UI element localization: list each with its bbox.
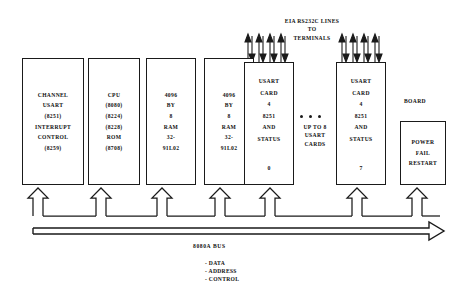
block-line: CPU — [108, 90, 121, 101]
block-line: BY — [225, 100, 233, 111]
block-line: 91L02 — [163, 143, 180, 154]
block-line: USART — [43, 100, 64, 111]
block-line: 8251 — [263, 111, 276, 123]
dot — [318, 115, 321, 118]
block-line: STATUS — [349, 134, 372, 146]
block-line: RAM — [222, 122, 236, 133]
block-line: POWER — [412, 137, 435, 148]
block-line: (8224) — [105, 111, 122, 122]
block-line: STATUS — [257, 134, 280, 146]
block-line: AND — [354, 122, 367, 134]
block-line: 32- — [225, 132, 234, 143]
bus-name-label: 8080A BUS — [193, 243, 226, 249]
bus-signal-control: - CONTROL — [205, 275, 239, 283]
block-line: AND — [262, 122, 275, 134]
block-line: 91L02 — [221, 143, 238, 154]
block-line: RAM — [164, 122, 178, 133]
block-line: (8708) — [105, 143, 122, 154]
note-line3: CARDS — [294, 140, 336, 148]
block-line: 4 — [267, 99, 270, 111]
block-line: USART — [351, 76, 372, 88]
block-line: CARD — [352, 88, 370, 100]
block-line: CONTROL — [38, 132, 69, 143]
block-usart-card-0[interactable]: USART CARD 4 8251 AND STATUS 0 — [244, 62, 294, 185]
usart-card-index: 7 — [337, 165, 385, 171]
up-to-8-usart-cards-note: UP TO 8 USART CARDS — [294, 123, 336, 148]
block-line: INTERRUPT — [35, 122, 71, 133]
block-line: ROM — [107, 132, 122, 143]
note-line2: USART — [294, 131, 336, 139]
block-line: CHANNEL — [38, 90, 68, 101]
block-line: 8 — [169, 111, 172, 122]
block-line: BY — [167, 100, 175, 111]
bus-signal-list: - DATA - ADDRESS - CONTROL — [205, 259, 239, 284]
note-line1: UP TO 8 — [294, 123, 336, 131]
block-line: FAIL — [416, 148, 430, 159]
block-line: 8 — [227, 111, 230, 122]
block-ram-1[interactable]: 4096 BY 8 RAM 32- 91L02 — [146, 58, 196, 185]
ellipsis-dots — [300, 115, 321, 118]
block-line: 4 — [359, 99, 362, 111]
block-line: (8251) — [44, 111, 61, 122]
block-power-fail-restart[interactable]: POWER FAIL RESTART — [400, 121, 446, 185]
block-cpu[interactable]: CPU (8080) (8224) (8228) ROM (8708) — [88, 58, 140, 185]
block-line: (8080) — [105, 100, 122, 111]
block-channel-usart-interrupt-control[interactable]: CHANNEL USART (8251) INTERRUPT CONTROL (… — [22, 58, 84, 185]
block-line: 4096 — [165, 90, 178, 101]
terminal-lines-card-7 — [339, 34, 382, 62]
dot — [300, 115, 303, 118]
block-line: 8251 — [355, 111, 368, 123]
block-line: CARD — [260, 88, 278, 100]
block-usart-card-7[interactable]: USART CARD 4 8251 AND STATUS 7 — [336, 62, 386, 185]
usart-card-index: 0 — [245, 165, 293, 171]
block-line: USART — [259, 76, 280, 88]
bus-signal-data: - DATA — [205, 259, 239, 267]
block-line: 32- — [167, 132, 176, 143]
block-line: (8259) — [44, 143, 61, 154]
board-label: BOARD — [404, 97, 444, 105]
block-line: RESTART — [409, 158, 437, 169]
block-line: (8228) — [105, 122, 122, 133]
diagram-canvas: EIA RS232C LINES TO TERMINALS — [0, 0, 456, 294]
block-line: 4096 — [223, 90, 236, 101]
dot — [309, 115, 312, 118]
bus-signal-address: - ADDRESS — [205, 267, 239, 275]
